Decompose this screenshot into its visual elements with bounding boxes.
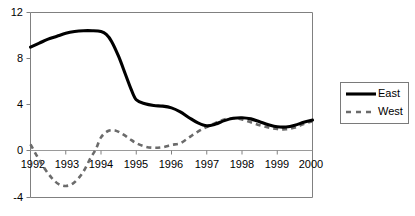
y-tick-label-4: 4 [17, 98, 23, 110]
x-axis-labels: 1992 1993 1994 1995 1996 1997 1998 1999 … [21, 158, 323, 170]
x-tick-label-1993: 1993 [55, 158, 79, 170]
x-tick-label-1996: 1996 [159, 158, 183, 170]
x-axis-ticks [31, 151, 313, 155]
y-tick-label-0: 0 [17, 144, 23, 156]
x-tick-label-1994: 1994 [89, 158, 113, 170]
x-tick-label-1997: 1997 [195, 158, 219, 170]
line-chart: 12 8 4 0 -4 1992 1993 1994 1995 1996 199… [0, 0, 415, 216]
x-tick-label-2000: 2000 [299, 158, 323, 170]
y-tick-label-neg4: -4 [13, 191, 23, 203]
x-tick-label-1999: 1999 [265, 158, 289, 170]
chart-canvas: 12 8 4 0 -4 1992 1993 1994 1995 1996 199… [0, 0, 415, 216]
x-tick-label-1995: 1995 [124, 158, 148, 170]
legend-label-east: East [378, 87, 400, 99]
y-tick-label-12: 12 [11, 6, 23, 18]
series-line-east [31, 31, 313, 127]
y-tick-label-8: 8 [17, 52, 23, 64]
y-axis-labels: 12 8 4 0 -4 [11, 6, 23, 203]
legend-label-west: West [378, 105, 403, 117]
x-tick-label-1998: 1998 [230, 158, 254, 170]
chart-legend: East West [341, 83, 409, 124]
